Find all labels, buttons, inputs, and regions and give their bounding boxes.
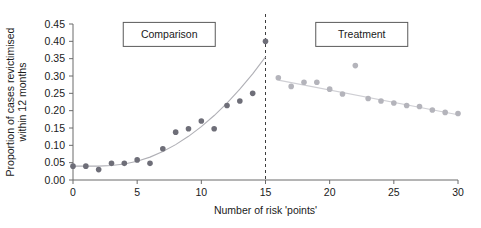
x-tick-label: 25 [388,186,400,198]
annotation-label-comparison: Comparison [141,28,198,40]
x-tick-label: 5 [134,186,140,198]
chart-figure: 0.000.050.100.150.200.250.300.350.400.45… [0,0,481,228]
y-axis-tick-labels: 0.000.050.100.150.200.250.300.350.400.45 [45,18,66,186]
data-point [250,91,256,97]
data-point [263,39,269,45]
data-point [353,63,359,69]
data-point [391,100,397,106]
data-point [122,161,128,167]
data-point [147,161,153,167]
data-point [404,103,410,109]
x-tick-label: 10 [195,186,207,198]
y-tick-label: 0.25 [45,87,66,99]
annotation-label-treatment: Treatment [338,28,386,40]
data-point [83,163,89,169]
y-tick-label: 0.15 [45,122,66,134]
data-point [365,96,371,102]
x-tick-label: 0 [70,186,76,198]
data-point [417,104,423,110]
y-axis-title-line1: Proportion of cases revictimised [4,27,16,176]
data-point [109,161,115,167]
y-axis-title-line2: within 12 months [16,63,28,143]
x-axis-tick-marks [73,180,458,184]
y-tick-label: 0.40 [45,35,66,47]
data-point [173,129,179,135]
data-point [430,107,436,113]
x-axis-title: Number of risk 'points' [214,204,317,216]
x-axis-tick-labels: 051015202530 [70,186,464,198]
y-tick-label: 0.35 [45,52,66,64]
data-point [134,157,140,163]
data-point [455,111,461,117]
data-point [224,103,230,109]
data-point [70,163,76,169]
y-tick-label: 0.00 [45,174,66,186]
data-point [186,126,192,132]
data-point [211,126,217,132]
data-point [160,146,166,152]
data-point [327,86,333,92]
data-point [237,98,243,104]
data-point [288,84,294,90]
y-tick-label: 0.10 [45,139,66,151]
x-tick-label: 15 [260,186,272,198]
y-tick-label: 0.05 [45,156,66,168]
chart-canvas: 0.000.050.100.150.200.250.300.350.400.45… [0,0,481,228]
data-point [96,167,102,173]
data-point [314,79,320,85]
y-tick-label: 0.20 [45,104,66,116]
data-point [301,79,307,85]
data-point [378,98,384,104]
x-tick-label: 30 [452,186,464,198]
data-point [199,118,205,124]
y-axis-tick-marks [69,24,73,180]
data-point [442,110,448,116]
x-tick-label: 20 [324,186,336,198]
data-point [276,75,282,81]
y-tick-label: 0.45 [45,18,66,30]
data-point [340,91,346,97]
fitted-line-comparison-fitted-curve [73,57,266,166]
y-tick-label: 0.30 [45,70,66,82]
